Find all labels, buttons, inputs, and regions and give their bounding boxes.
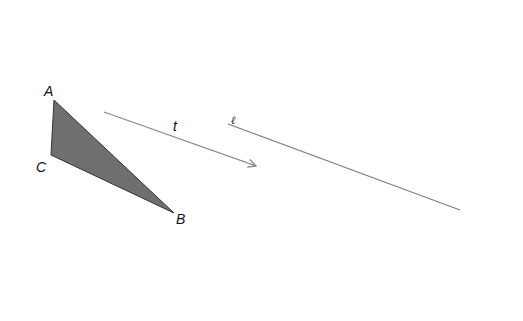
vertex-label-a: A [43,83,53,99]
vertex-label-b: B [176,211,185,227]
triangle-abc [51,100,174,213]
vector-label-t: t [173,118,178,134]
line-label-l: ℓ [231,114,236,126]
vertex-label-c: C [36,159,47,175]
line-l [228,124,460,210]
geometry-canvas: A B C t ℓ [0,0,523,321]
